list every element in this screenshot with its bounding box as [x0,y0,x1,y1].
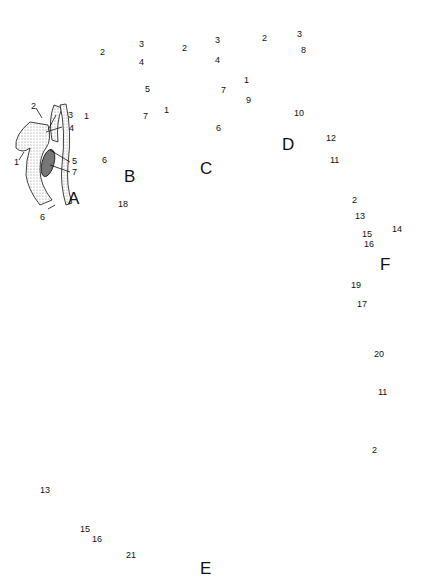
label-c-2: 2 [182,44,187,53]
label-c-6: 6 [216,124,221,133]
label-b-3: 3 [139,40,144,49]
panel-label-a: A [68,190,79,207]
panel-label-d: D [282,136,294,153]
label-b-5: 5 [145,85,150,94]
label-f-14: 14 [392,225,402,234]
label-f-16: 16 [364,240,374,249]
label-b-2: 2 [100,48,105,57]
label-e-16: 16 [92,535,102,544]
label-d-10: 10 [294,109,304,118]
label-e-19: 19 [351,281,361,290]
label-e-20: 20 [374,350,384,359]
label-f-11: 11 [330,156,339,165]
label-e-17: 17 [357,300,367,309]
label-d-9: 9 [246,96,251,105]
label-e-15: 15 [80,525,90,534]
label-a-5: 5 [72,157,77,166]
label-e-11: 11 [378,388,387,397]
label-d-8: 8 [301,46,306,55]
label-a-2: 2 [31,102,36,111]
label-a-3: 3 [68,111,73,120]
label-e-2: 2 [372,446,377,455]
label-b-4: 4 [139,58,144,67]
label-c-1: 1 [164,106,169,115]
label-a-4: 4 [69,124,74,133]
label-a-6: 6 [40,213,45,222]
label-e-13: 13 [40,486,50,495]
label-c-4: 4 [215,56,220,65]
label-a-7: 7 [72,168,77,177]
panel-label-b: B [124,168,135,185]
label-d-2: 2 [262,34,267,43]
label-f-2: 2 [352,196,357,205]
panel-label-e: E [200,560,211,577]
panel-label-c: C [200,160,212,177]
label-d-1: 1 [244,76,249,85]
panel-label-f: F [380,256,390,273]
label-f-12: 12 [326,134,336,143]
label-e-21: 21 [126,551,136,560]
label-c-7: 7 [221,86,226,95]
label-f-15: 15 [362,230,372,239]
label-d-3: 3 [297,30,302,39]
label-c-3: 3 [215,36,220,45]
label-b-6: 6 [102,156,107,165]
label-a-1: 1 [14,158,19,167]
label-f-13: 13 [355,212,365,221]
label-b-7: 7 [143,112,148,121]
label-e-18: 18 [118,200,128,209]
label-b-1: 1 [84,112,89,121]
